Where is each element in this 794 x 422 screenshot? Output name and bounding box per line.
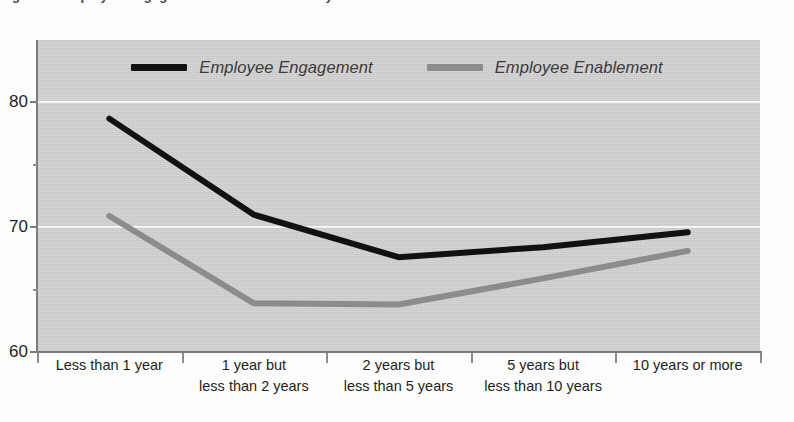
x-axis-labels: Less than 1 year 1 year but less than 2 … [37, 355, 760, 397]
figure-caption-remnant: Figure 5. Employee Engagement and Enable… [0, 0, 794, 10]
x-axis-label-4: 10 years or more [615, 355, 760, 397]
x-axis-label-1-line2: less than 2 years [184, 376, 325, 397]
x-axis-label-0-line1: Less than 1 year [56, 357, 163, 373]
x-axis-label-2-line1: 2 years but [363, 357, 435, 373]
x-axis-label-0: Less than 1 year [37, 355, 182, 397]
line-employee-enablement [109, 216, 687, 305]
x-axis-label-2-line2: less than 5 years [328, 376, 469, 397]
x-axis-label-1-line1: 1 year but [222, 357, 287, 373]
x-axis-label-1: 1 year but less than 2 years [182, 355, 327, 397]
figure-container: 80 70 60 Employee Engagement Employee En… [6, 18, 788, 414]
line-employee-engagement [109, 119, 687, 258]
page-background: Figure 5. Employee Engagement and Enable… [0, 0, 794, 422]
x-axis-label-3-line2: less than 10 years [473, 376, 614, 397]
x-axis-label-4-line1: 10 years or more [633, 357, 743, 373]
x-axis-label-3: 5 years but less than 10 years [471, 355, 616, 397]
x-axis-label-2: 2 years but less than 5 years [326, 355, 471, 397]
x-axis-label-3-line1: 5 years but [507, 357, 579, 373]
figure-caption-text: Figure 5. Employee Engagement and Enable… [0, 0, 380, 3]
